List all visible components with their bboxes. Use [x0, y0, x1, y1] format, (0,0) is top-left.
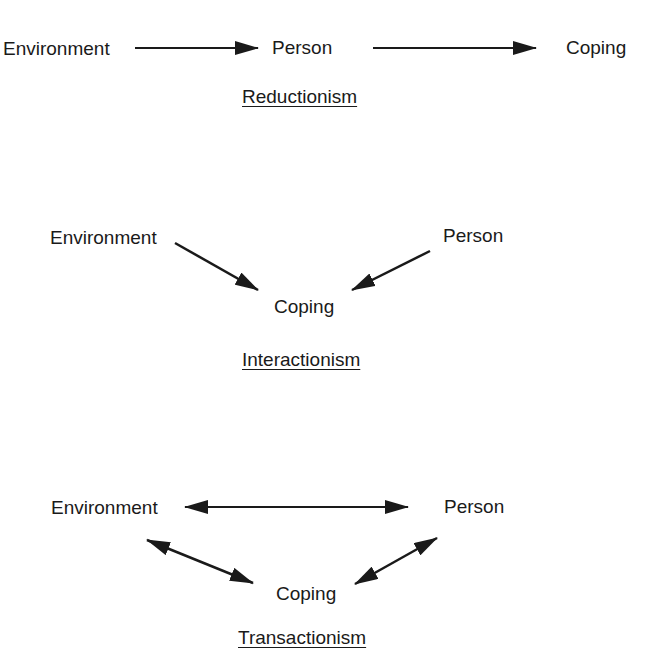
arrow-environment-coping-bidirectional [147, 540, 253, 583]
node-environment: Environment [51, 497, 158, 519]
arrow-person-coping-bidirectional [355, 538, 437, 584]
node-environment: Environment [3, 38, 110, 60]
node-coping: Coping [274, 296, 334, 318]
node-coping: Coping [566, 37, 626, 59]
node-person: Person [272, 37, 332, 59]
arrow-environment-to-coping [175, 243, 258, 290]
arrow-person-to-coping [352, 251, 430, 290]
node-coping: Coping [276, 583, 336, 605]
node-person: Person [443, 225, 503, 247]
node-environment: Environment [50, 227, 157, 249]
node-person: Person [444, 496, 504, 518]
diagram-title: Transactionism [238, 627, 366, 649]
diagram-title: Reductionism [242, 86, 357, 108]
diagram-title: Interactionism [242, 349, 360, 371]
